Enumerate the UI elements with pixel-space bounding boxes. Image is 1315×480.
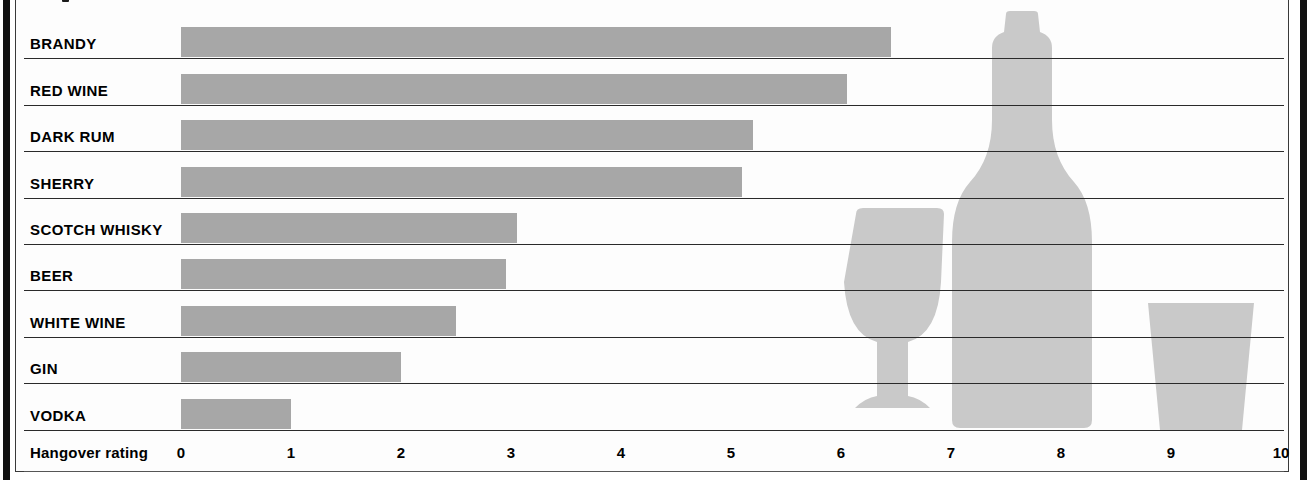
bar-sherry (181, 167, 742, 197)
bar-red-wine (181, 74, 847, 104)
category-label-beer: BEER (30, 267, 73, 284)
bar-white-wine (181, 306, 456, 336)
x-axis-tick-2: 2 (397, 444, 405, 461)
category-label-vodka: VODKA (30, 407, 86, 424)
chart-row: WHITE WINE (16, 291, 1288, 337)
chart-row: BRANDY (16, 13, 1288, 59)
chart-row: BEER (16, 245, 1288, 291)
x-axis-tick-7: 7 (947, 444, 955, 461)
x-axis-tick-4: 4 (617, 444, 625, 461)
category-label-gin: GIN (30, 360, 58, 377)
x-axis-tick-0: 0 (177, 444, 185, 461)
bar-brandy (181, 27, 891, 57)
plot-area: BRANDY RED WINE DARK RUM SHERRY SCOTCH W… (16, 0, 1288, 436)
x-axis-tick-8: 8 (1057, 444, 1065, 461)
category-label-brandy: BRANDY (30, 35, 97, 52)
x-axis-tick-9: 9 (1167, 444, 1175, 461)
category-label-scotch-whisky: SCOTCH WHISKY (30, 221, 163, 238)
chart-row: SHERRY (16, 152, 1288, 198)
x-axis-tick-10: 10 (1273, 444, 1290, 461)
chart-row: RED WINE (16, 59, 1288, 105)
bar-dark-rum (181, 120, 753, 150)
category-label-sherry: SHERRY (30, 175, 94, 192)
bar-beer (181, 259, 506, 289)
bar-gin (181, 352, 401, 382)
chart-page: BRANDY RED WINE DARK RUM SHERRY SCOTCH W… (0, 0, 1315, 480)
bar-vodka (181, 399, 291, 429)
category-label-dark-rum: DARK RUM (30, 128, 115, 145)
x-axis-tick-5: 5 (727, 444, 735, 461)
x-axis-tick-6: 6 (837, 444, 845, 461)
x-axis-tick-3: 3 (507, 444, 515, 461)
category-label-white-wine: WHITE WINE (30, 314, 126, 331)
x-axis-tick-1: 1 (287, 444, 295, 461)
bar-scotch-whisky (181, 213, 517, 243)
chart-row: DARK RUM (16, 106, 1288, 152)
chart-row: GIN (16, 338, 1288, 384)
x-axis: Hangover rating 012345678910 (16, 436, 1288, 472)
x-axis-baseline (24, 471, 1284, 472)
row-rule (24, 430, 1284, 431)
chart-row: VODKA (16, 384, 1288, 430)
x-axis-title: Hangover rating (30, 444, 148, 461)
left-page-spine (3, 0, 10, 480)
category-label-red-wine: RED WINE (30, 82, 108, 99)
chart-row: SCOTCH WHISKY (16, 199, 1288, 245)
right-page-spine (1300, 0, 1307, 480)
